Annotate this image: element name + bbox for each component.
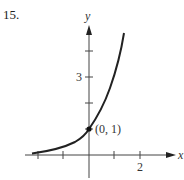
y-axis-label: y	[84, 9, 91, 23]
point-label: (0, 1)	[95, 122, 121, 136]
x-axis-arrow-icon	[166, 152, 176, 158]
y-tick-label-3: 3	[76, 70, 82, 84]
x-tick-label-2: 2	[137, 160, 143, 174]
x-axis-label: x	[177, 148, 184, 162]
point-marker	[86, 126, 91, 131]
y-axis-arrow-icon	[86, 25, 92, 35]
graph: 2 3 x y (0, 1)	[0, 0, 184, 180]
